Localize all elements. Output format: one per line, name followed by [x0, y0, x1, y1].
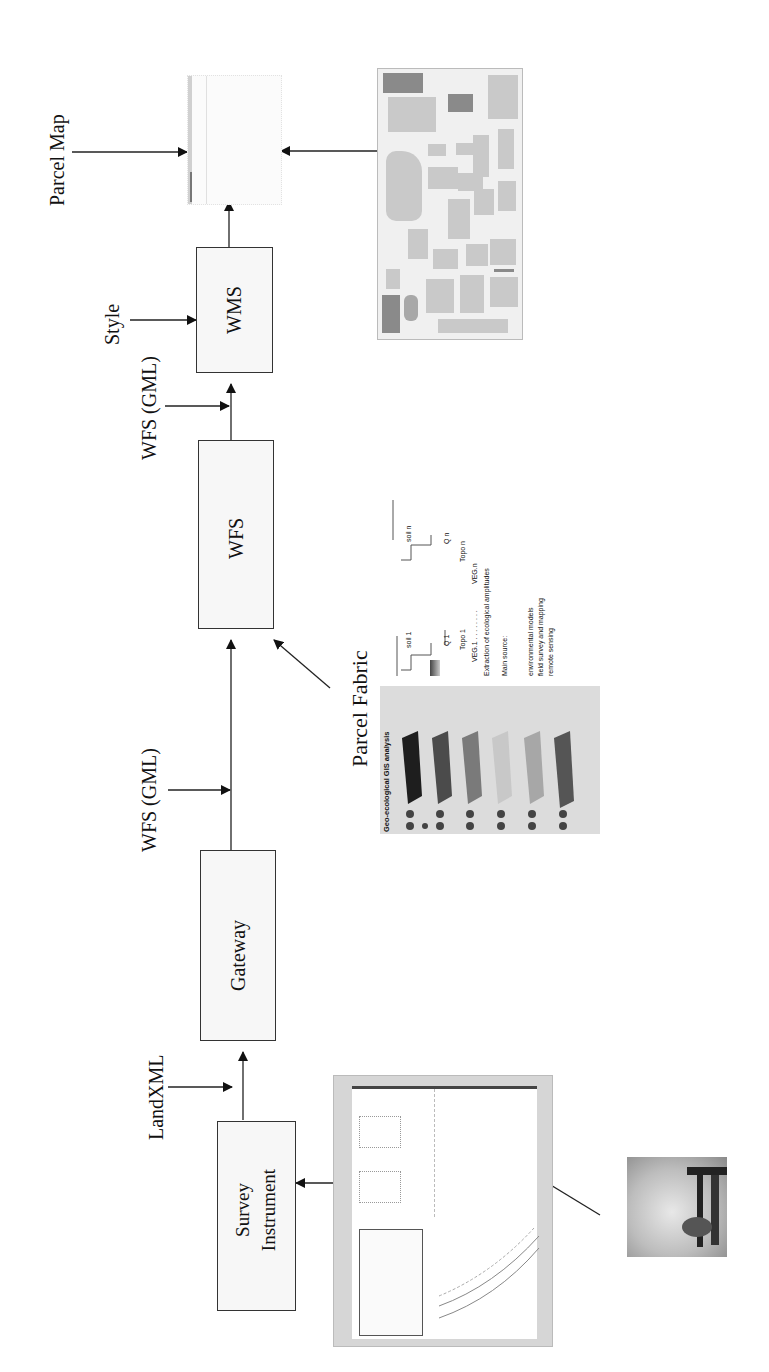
landxml-label: LandXML: [145, 1054, 168, 1140]
city-map-image: [377, 68, 523, 340]
gateway-label: Gateway: [227, 920, 250, 991]
topon-label: Topo n: [459, 541, 466, 562]
soil-n-label: soil n: [405, 526, 412, 542]
wfs-gml-upper-label: WFS (GML): [138, 356, 161, 460]
extraction-label: Extraction of ecological amplitudes: [483, 568, 490, 676]
style-label: Style: [101, 304, 124, 345]
soil-1-label: soil 1: [405, 632, 412, 648]
field-photo-image: [627, 1157, 727, 1257]
wfs-gml-lower-label: WFS (GML): [138, 748, 161, 852]
survey-instrument-label-line2: Instrument: [256, 1150, 282, 1270]
parcel-map-label: Parcel Map: [46, 114, 69, 206]
gis-sources-list: environmental models field survey and ma…: [527, 480, 567, 680]
topo1-label: Topo 1: [459, 629, 466, 650]
gis-layers-image: Geo-ecological GIS analysis: [380, 686, 600, 834]
parcel-fabric-label: Parcel Fabric: [347, 650, 373, 767]
main-source-label: Main source:: [501, 636, 508, 676]
gis-layer-stack: [380, 686, 600, 834]
gis-detail-diagram: soil 1 soil n Q 1 Q n Topo 1 Topo n VEG.…: [383, 480, 523, 680]
source-item: environmental models: [527, 608, 534, 676]
survey-table: [359, 1229, 423, 1336]
survey-instrument-box: Survey Instrument: [217, 1121, 296, 1311]
veg1-label: VEG.1 . . . . . . . .: [471, 610, 478, 662]
survey-instrument-label-line1: Survey: [230, 1150, 256, 1270]
wfs-label: WFS: [225, 518, 248, 559]
source-item: field survey and mapping: [537, 598, 544, 676]
parcel-map-output-image: [187, 75, 282, 205]
qn-label: Q n: [443, 533, 450, 544]
gis-figure-title: Geo-ecological GIS analysis: [382, 732, 391, 832]
wfs-box: WFS: [198, 440, 274, 629]
vegn-label: VEG.n: [471, 563, 478, 584]
legend-swatch: [430, 660, 440, 676]
gateway-box: Gateway: [200, 850, 276, 1041]
wms-box: WMS: [196, 247, 273, 373]
source-item: remote sensing: [547, 628, 554, 676]
wms-label: WMS: [223, 286, 246, 334]
q1-label: Q 1: [443, 635, 450, 646]
survey-drawing-image: [333, 1075, 553, 1347]
